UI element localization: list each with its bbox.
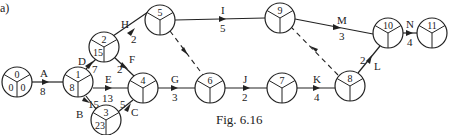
activity-f: F 2 [114,53,135,76]
activity-label: J [243,73,248,85]
node-0: 0 0 0 [2,67,32,97]
node-number: 10 [383,20,393,31]
node-number: 11 [427,20,437,31]
activity-i: I 5 [175,4,265,34]
activity-j: J 2 [225,73,267,103]
activity-duration: 4 [407,36,413,48]
node-earliest-time: 0 [9,82,14,93]
activity-duration: 2 [360,54,366,66]
node-number: 6 [208,75,213,86]
node-6: 6 [195,73,225,103]
figure-caption: Fig. 6.16 [216,112,263,127]
activity-label: A [40,67,48,79]
network-diagram: a) A 8 D 7 E 13 B 15 C 5 F 2 [0,0,450,135]
node-number: 8 [348,73,353,84]
activity-k: K 4 [297,73,335,103]
node-2: 2 15 [89,32,119,62]
activity-label: N [406,18,414,30]
activity-duration: 5 [120,98,126,110]
node-number: 4 [141,75,146,86]
arrow-icon [310,46,318,52]
node-7: 7 [267,73,297,103]
activity-label: M [337,14,347,26]
activity-duration: 3 [339,30,345,42]
activity-a: A 8 [32,67,63,97]
node-number: 7 [280,75,285,86]
part-label: a) [0,1,9,15]
activity-duration: 8 [40,85,46,97]
activity-m: M 3 [295,14,373,42]
activity-label: G [171,73,179,85]
node-4: 4 [128,73,158,103]
arrow-icon [181,47,188,55]
activity-duration: 13 [102,92,114,104]
node-8: 8 [335,71,365,101]
activity-duration: 7 [92,63,98,75]
activity-label: B [76,108,83,120]
activity-label: E [105,73,112,85]
activity-n: N 4 [403,18,417,48]
activity-duration: 2 [242,91,248,103]
node-number: 9 [278,5,283,16]
activity-h: H 2 [113,12,148,45]
activity-label: H [121,18,129,30]
activity-label: F [129,53,135,65]
node-number: 5 [158,7,163,18]
node-latest-time: 0 [21,82,26,93]
node-earliest-time: 23 [95,120,105,131]
node-earliest-time: 8 [70,82,75,93]
node-number: 0 [15,69,20,80]
node-earliest-time: 15 [93,47,103,58]
node-number: 3 [104,107,109,118]
dummy-activity-5-6 [170,31,203,75]
dummy-activity-8-9 [292,28,338,75]
node-5: 5 [145,5,175,35]
arrow-icon [105,85,112,91]
activity-l: L 2 [358,46,381,73]
activity-label: L [374,60,381,72]
node-11: 11 [417,18,447,48]
activity-label: D [78,55,86,67]
activity-duration: 4 [314,91,320,103]
activity-label: C [131,106,138,118]
activity-label: K [313,73,321,85]
activity-label: I [221,4,225,16]
activity-duration: 2 [131,33,137,45]
node-number: 2 [102,34,107,45]
node-9: 9 [265,3,295,33]
node-10: 10 [373,18,403,48]
activity-g: G 3 [158,73,195,103]
activity-duration: 3 [172,91,178,103]
activity-duration: 5 [220,22,226,34]
activity-duration: 2 [117,63,123,75]
node-3: 3 23 [91,105,121,135]
node-number: 1 [76,69,81,80]
node-1: 1 8 [63,67,93,97]
